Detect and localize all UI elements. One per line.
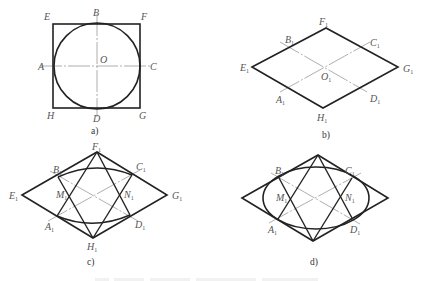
label-g1: G1	[172, 190, 182, 202]
label-a1: A1	[267, 224, 277, 236]
label-c1: C1	[136, 161, 146, 173]
panel-c: F1 B1 C1 E1 M1 N1 G1 A1 D1 H1 c)	[8, 141, 182, 268]
panel-d: B1 C1 M1 N1 A1 D1 d)	[242, 155, 388, 268]
label-n1: N1	[123, 189, 134, 201]
label-e: E	[43, 11, 50, 22]
line-f1a1	[57, 152, 97, 216]
four-center-ellipse-figure: E B F A O C H D G a) F1 B1 C1 E1 O1 G1 A…	[0, 0, 423, 281]
caption-a: a)	[91, 126, 98, 137]
panel-a: E B F A O C H D G a)	[37, 7, 157, 137]
label-m1: M1	[275, 192, 287, 204]
label-h: H	[46, 110, 55, 121]
label-d1: D1	[369, 93, 380, 105]
label-o1: O1	[321, 71, 331, 83]
label-c: C	[150, 61, 157, 72]
label-c1: C1	[370, 37, 380, 49]
label-d1: D1	[134, 219, 145, 231]
label-c1: C1	[345, 165, 355, 177]
label-e1: E1	[8, 190, 18, 202]
panel-b: F1 B1 C1 E1 O1 G1 A1 D1 H1 b)	[239, 16, 413, 141]
label-f: F	[140, 11, 148, 22]
label-o: O	[100, 54, 107, 65]
label-n1: N1	[344, 192, 355, 204]
label-e1: E1	[239, 62, 249, 74]
label-b1: B1	[285, 34, 294, 46]
label-f1: F1	[91, 141, 101, 153]
label-h1: H1	[316, 112, 327, 124]
label-f1: F1	[318, 16, 328, 28]
label-a1: A1	[44, 221, 54, 233]
label-b1: B1	[275, 165, 284, 177]
label-a: A	[37, 61, 45, 72]
caption-b: b)	[322, 130, 330, 141]
label-b: B	[93, 7, 99, 18]
label-b1: B1	[53, 164, 62, 176]
caption-d: d)	[310, 257, 318, 268]
label-a1: A1	[275, 94, 285, 106]
caption-c: c)	[87, 257, 94, 268]
arc-b1c1	[58, 168, 132, 177]
label-g: G	[139, 110, 146, 121]
line-h1c1	[313, 178, 352, 241]
label-d1: D1	[349, 224, 360, 236]
label-d: D	[92, 113, 101, 124]
label-h1: H1	[86, 241, 97, 253]
label-g1: G1	[403, 63, 413, 75]
